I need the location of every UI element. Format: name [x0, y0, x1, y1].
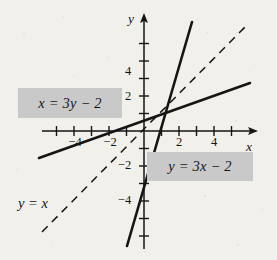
- line-y-equals-3x-minus-2: [127, 22, 192, 246]
- equation-label-y-equals-3x-minus-2: y = 3x − 2: [147, 152, 253, 181]
- equation-label-x-equals-3y-minus-2: x = 3y − 2: [18, 88, 122, 118]
- plot-canvas: [0, 0, 277, 260]
- y-tick-label-neg2: −2: [114, 159, 135, 172]
- equation-label-y-equals-x: y = x: [18, 196, 48, 211]
- x-tick-label-2: 2: [172, 136, 186, 149]
- y-tick-label-2: 2: [121, 90, 135, 103]
- y-tick-label-neg4: −4: [114, 194, 135, 207]
- y-tick-label-4: 4: [121, 65, 135, 78]
- x-tick-label-4: 4: [207, 136, 221, 149]
- x-tick-label-neg4: −4: [65, 136, 85, 149]
- x-tick-label-neg2: −2: [100, 136, 120, 149]
- y-axis-label: y: [128, 12, 134, 26]
- graph-figure: y x −4 −2 2 4 4 2 −2 −4 x = 3y − 2 y = 3…: [0, 0, 277, 260]
